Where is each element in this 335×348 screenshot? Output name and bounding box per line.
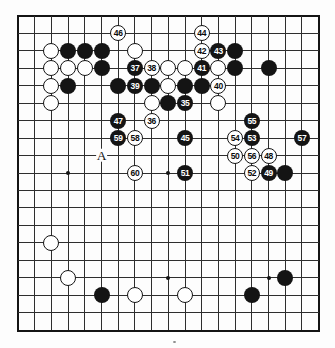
stone-move-41: 41 <box>194 60 210 76</box>
black-stone <box>227 60 243 76</box>
black-stone <box>144 78 160 94</box>
stone-move-58: 58 <box>127 130 143 146</box>
stone-move-53: 53 <box>244 130 260 146</box>
grid-line-h <box>18 33 319 34</box>
stone-move-57: 57 <box>294 130 310 146</box>
white-stone <box>127 287 143 303</box>
black-stone <box>94 287 110 303</box>
black-stone <box>227 43 243 59</box>
stone-move-36: 36 <box>144 113 160 129</box>
white-stone <box>43 235 59 251</box>
white-stone <box>43 43 59 59</box>
stone-move-50: 50 <box>227 148 243 164</box>
grid-line-h <box>18 225 319 226</box>
black-stone <box>94 60 110 76</box>
white-stone <box>210 95 226 111</box>
stone-move-48: 48 <box>261 148 277 164</box>
grid-line-h <box>18 242 319 243</box>
stone-move-54: 54 <box>227 130 243 146</box>
stone-move-44: 44 <box>194 25 210 41</box>
black-stone <box>277 165 293 181</box>
stone-move-56: 56 <box>244 148 260 164</box>
stone-move-37: 37 <box>127 60 143 76</box>
black-stone <box>277 270 293 286</box>
point-label-a: A <box>96 148 108 162</box>
stone-move-35: 35 <box>177 95 193 111</box>
white-stone <box>177 60 193 76</box>
stone-move-39: 39 <box>127 78 143 94</box>
white-stone <box>160 60 176 76</box>
white-stone <box>210 60 226 76</box>
stone-move-45: 45 <box>177 130 193 146</box>
grid-line-h <box>18 312 319 313</box>
black-stone <box>261 60 277 76</box>
grid-line-h <box>18 138 319 139</box>
grid-line-h <box>18 190 319 191</box>
black-stone <box>160 95 176 111</box>
print-speck <box>173 341 176 343</box>
stone-move-51: 51 <box>177 165 193 181</box>
black-stone <box>60 43 76 59</box>
black-stone <box>110 78 126 94</box>
grid-line-h <box>18 207 319 208</box>
black-stone <box>60 78 76 94</box>
stone-move-59: 59 <box>110 130 126 146</box>
stone-move-46: 46 <box>110 25 126 41</box>
stone-move-49: 49 <box>261 165 277 181</box>
star-point <box>66 171 70 175</box>
go-board: 3536373839404142434445464748495051525354… <box>0 0 335 348</box>
white-stone <box>43 95 59 111</box>
black-stone <box>244 287 260 303</box>
white-stone <box>127 43 143 59</box>
stone-move-60: 60 <box>127 165 143 181</box>
stone-move-47: 47 <box>110 113 126 129</box>
black-stone <box>194 78 210 94</box>
stone-move-42: 42 <box>194 43 210 59</box>
star-point <box>166 171 170 175</box>
black-stone <box>177 78 193 94</box>
black-stone <box>77 43 93 59</box>
white-stone <box>60 60 76 76</box>
stone-move-43: 43 <box>210 43 226 59</box>
stone-move-52: 52 <box>244 165 260 181</box>
grid-line-h <box>18 260 319 261</box>
white-stone <box>60 270 76 286</box>
stone-move-55: 55 <box>244 113 260 129</box>
star-point <box>166 276 170 280</box>
white-stone <box>77 60 93 76</box>
stone-move-40: 40 <box>210 78 226 94</box>
go-diagram-page: 3536373839404142434445464748495051525354… <box>0 0 335 348</box>
white-stone <box>144 95 160 111</box>
white-stone <box>160 78 176 94</box>
grid-line-h <box>18 295 319 296</box>
grid-line-h <box>18 120 319 121</box>
white-stone <box>43 60 59 76</box>
white-stone <box>43 78 59 94</box>
white-stone <box>177 287 193 303</box>
stone-move-38: 38 <box>144 60 160 76</box>
star-point <box>267 276 271 280</box>
black-stone <box>94 43 110 59</box>
